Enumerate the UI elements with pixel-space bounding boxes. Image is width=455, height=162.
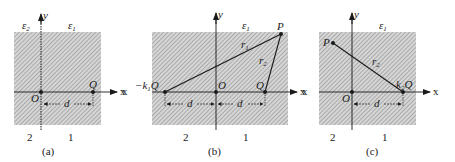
point-p: [279, 32, 283, 36]
panel-b: y x x O Q P −k1Q r1 r2 d d ε1 2 1 (b): [122, 8, 306, 158]
caption-c: (c): [366, 145, 379, 158]
region-1-label: 1: [68, 131, 74, 143]
x-label-left: x: [122, 85, 128, 97]
caption-b: (b): [208, 145, 221, 158]
image-charge-label: k2Q: [396, 78, 412, 92]
point-p-label: P: [322, 36, 330, 48]
panel-a: y x O Q d ε2 ε1 2 1 (a): [14, 9, 126, 158]
region-1-label: 1: [243, 131, 249, 143]
dielectric-region: [14, 32, 101, 125]
region-2-label: 2: [183, 131, 189, 143]
distance-d-left-label: d: [187, 97, 193, 109]
origin-label: O: [342, 92, 350, 104]
y-label: y: [217, 8, 223, 20]
x-label: x: [433, 85, 439, 97]
origin-point: [350, 90, 354, 94]
charge-q-label: Q: [89, 78, 97, 90]
charge-q-label: Q: [256, 79, 264, 91]
origin-label: O: [218, 79, 226, 91]
point-p-label: P: [276, 20, 284, 32]
region-1-label: 1: [382, 131, 388, 143]
distance-d-label: d: [374, 97, 380, 109]
y-label: y: [42, 9, 48, 21]
diagram-canvas: y x O Q d ε2 ε1 2 1 (a) y x x O Q P: [0, 0, 455, 162]
epsilon-1-label: ε1: [68, 19, 76, 33]
origin-point: [39, 90, 43, 94]
epsilon-1-label: ε1: [379, 19, 387, 33]
distance-d-label: d: [64, 97, 70, 109]
caption-a: (a): [42, 145, 55, 158]
y-label: y: [353, 8, 359, 20]
image-charge-label: −k1Q: [135, 79, 159, 93]
panel-c: y x x O P k2Q r2 d ε1 2 1 (c): [302, 8, 439, 158]
region-2-label: 2: [27, 131, 33, 143]
origin-label: O: [31, 92, 39, 104]
dielectric-region: [319, 32, 416, 125]
region-2-label: 2: [330, 131, 336, 143]
distance-d-right-label: d: [237, 97, 243, 109]
point-p: [331, 41, 335, 45]
epsilon-1-label: ε1: [242, 19, 250, 33]
epsilon-2-label: ε2: [22, 19, 30, 33]
x-label-left: x: [302, 85, 308, 97]
